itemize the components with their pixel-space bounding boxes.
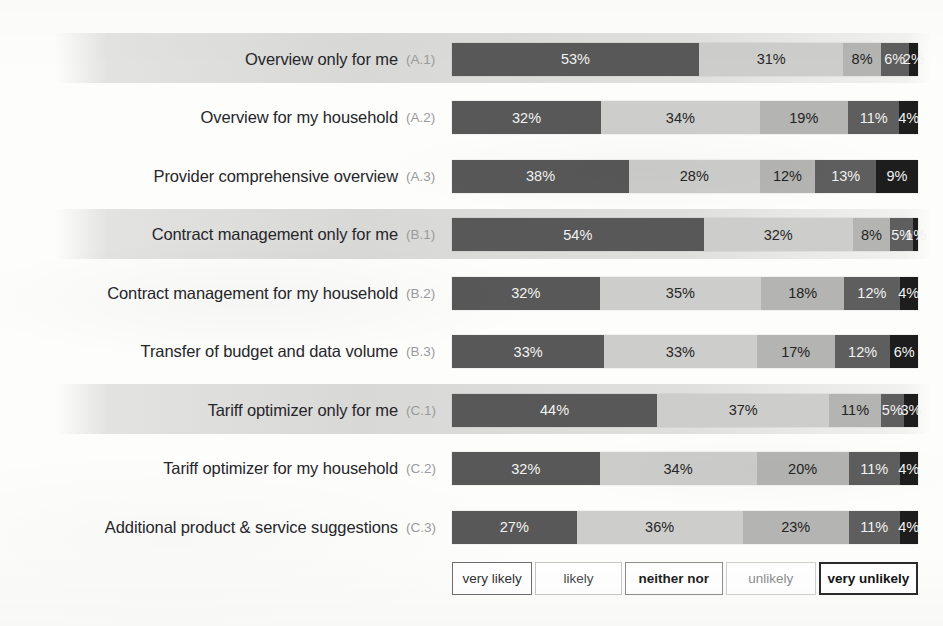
legend-item-2[interactable]: neither nor xyxy=(625,562,723,595)
bar-segment: 38% xyxy=(452,160,629,193)
chart-legend: very likelylikelyneither norunlikelyvery… xyxy=(452,562,918,595)
bar-segment: 17% xyxy=(757,335,835,368)
bar-segment-value: 12% xyxy=(848,344,877,360)
bar-segment-value: 36% xyxy=(645,519,674,535)
bar-segment-value: 44% xyxy=(540,402,569,418)
bar-segment-value: 31% xyxy=(757,51,786,67)
bar-segment: 32% xyxy=(452,277,600,310)
bar-segment-value: 27% xyxy=(500,519,529,535)
row-code: (A.2) xyxy=(406,110,444,125)
stacked-bar: 33%33%17%12%6% xyxy=(452,335,918,368)
legend-item-label: neither nor xyxy=(638,571,709,586)
legend-item-3[interactable]: unlikely xyxy=(726,562,816,595)
bar-segment-value: 12% xyxy=(857,285,886,301)
bar-segment-value: 54% xyxy=(563,227,592,243)
row-label: Contract management only for me xyxy=(0,225,398,244)
bar-segment-value: 34% xyxy=(664,461,693,477)
bar-segment: 11% xyxy=(849,452,900,485)
row-code: (C.1) xyxy=(406,403,444,418)
bar-segment: 11% xyxy=(849,511,900,544)
row-code: (A.3) xyxy=(406,169,444,184)
row-code: (C.3) xyxy=(406,520,444,535)
legend-item-1[interactable]: likely xyxy=(535,562,621,595)
bar-segment: 13% xyxy=(815,160,876,193)
bar-segment-value: 23% xyxy=(781,519,810,535)
bar-segment-value: 28% xyxy=(680,168,709,184)
bar-segment: 53% xyxy=(452,43,699,76)
row-code: (B.2) xyxy=(406,286,444,301)
row-label: Overview only for me xyxy=(0,50,398,69)
stacked-bar: 54%32%8%5%1% xyxy=(452,218,918,251)
bar-segment: 11% xyxy=(848,101,899,134)
bar-segment: 27% xyxy=(452,511,577,544)
bar-segment-value: 53% xyxy=(561,51,590,67)
row-code: (B.3) xyxy=(406,344,444,359)
bar-segment-value: 34% xyxy=(666,110,695,126)
bar-segment-value: 3% xyxy=(900,402,921,418)
bar-segment-value: 32% xyxy=(764,227,793,243)
bar-segment-value: 12% xyxy=(773,168,802,184)
chart-row: Contract management only for me(B.1)54%3… xyxy=(0,206,943,264)
bar-segment: 12% xyxy=(844,277,899,310)
stacked-bar: 32%34%19%11%4% xyxy=(452,101,918,134)
bar-segment-value: 4% xyxy=(898,461,919,477)
bar-segment: 3% xyxy=(904,394,918,427)
bar-segment-value: 8% xyxy=(861,227,882,243)
bar-segment-value: 33% xyxy=(666,344,695,360)
bar-segment-value: 38% xyxy=(526,168,555,184)
bar-segment-value: 4% xyxy=(898,285,919,301)
row-label: Provider comprehensive overview xyxy=(0,167,398,186)
bar-segment: 23% xyxy=(743,511,849,544)
row-code: (B.1) xyxy=(406,227,444,242)
bar-segment: 54% xyxy=(452,218,704,251)
bar-segment-value: 9% xyxy=(887,168,908,184)
bar-segment: 18% xyxy=(761,277,844,310)
bar-segment: 8% xyxy=(853,218,890,251)
stacked-bar: 44%37%11%5%3% xyxy=(452,394,918,427)
bar-segment: 32% xyxy=(704,218,853,251)
bar-segment-value: 2% xyxy=(903,51,924,67)
bar-segment: 12% xyxy=(835,335,890,368)
bar-segment-value: 8% xyxy=(852,51,873,67)
stacked-bar: 38%28%12%13%9% xyxy=(452,160,918,193)
row-label: Contract management for my household xyxy=(0,284,398,303)
row-label: Tariff optimizer for my household xyxy=(0,459,398,478)
legend-item-0[interactable]: very likely xyxy=(452,562,532,595)
bar-segment: 4% xyxy=(900,511,918,544)
legend-item-label: likely xyxy=(564,571,594,586)
row-code: (C.2) xyxy=(406,461,444,476)
chart-row: Additional product & service suggestions… xyxy=(0,498,943,556)
chart-row: Provider comprehensive overview(A.3)38%2… xyxy=(0,147,943,205)
legend-item-label: unlikely xyxy=(748,571,793,586)
bar-segment: 2% xyxy=(909,43,918,76)
bar-segment-value: 6% xyxy=(894,344,915,360)
bar-segment: 32% xyxy=(452,452,600,485)
bar-segment: 33% xyxy=(604,335,756,368)
legend-item-label: very likely xyxy=(463,571,522,586)
bar-segment-value: 17% xyxy=(781,344,810,360)
bar-segment: 44% xyxy=(452,394,657,427)
bar-segment-value: 11% xyxy=(841,402,869,418)
legend-item-4[interactable]: very unlikely xyxy=(819,562,918,595)
row-label: Transfer of budget and data volume xyxy=(0,342,398,361)
bar-segment: 8% xyxy=(843,43,880,76)
bar-segment-value: 37% xyxy=(729,402,758,418)
chart-row: Overview for my household(A.2)32%34%19%1… xyxy=(0,89,943,147)
bar-segment-value: 4% xyxy=(898,110,919,126)
bar-segment: 31% xyxy=(699,43,843,76)
bar-segment: 36% xyxy=(577,511,743,544)
stacked-bar: 53%31%8%6%2% xyxy=(452,43,918,76)
bar-segment-value: 1% xyxy=(905,227,926,243)
bar-segment: 4% xyxy=(900,277,918,310)
chart-row: Transfer of budget and data volume(B.3)3… xyxy=(0,323,943,381)
bar-segment-value: 32% xyxy=(511,285,540,301)
bar-segment-value: 18% xyxy=(788,285,817,301)
bar-segment: 34% xyxy=(600,452,757,485)
bar-segment: 4% xyxy=(900,452,918,485)
bar-segment-value: 33% xyxy=(514,344,543,360)
bar-segment-value: 19% xyxy=(789,110,818,126)
bar-segment: 4% xyxy=(899,101,918,134)
scanned-chart-page: Overview only for me(A.1)53%31%8%6%2%Ove… xyxy=(0,0,943,626)
row-code: (A.1) xyxy=(406,52,444,67)
chart-row: Overview only for me(A.1)53%31%8%6%2% xyxy=(0,30,943,88)
